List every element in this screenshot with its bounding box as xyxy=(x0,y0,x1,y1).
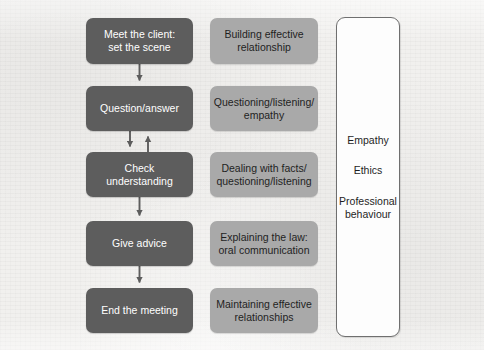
values-item-professional-behaviour: Professional behaviour xyxy=(339,195,397,220)
process-node-give-advice[interactable]: Give advice xyxy=(86,221,193,266)
skill-node-building-effective-relationship[interactable]: Building effective relationship xyxy=(210,18,318,64)
process-node-label: Give advice xyxy=(112,237,167,250)
diagram-canvas: Meet the client: set the scene Question/… xyxy=(0,0,484,350)
process-node-check-understanding[interactable]: Check understanding xyxy=(86,152,193,197)
values-item-empathy: Empathy xyxy=(347,134,388,147)
process-node-meet-the-client[interactable]: Meet the client: set the scene xyxy=(86,18,193,64)
skill-node-questioning-listening-empathy[interactable]: Questioning/listening/ empathy xyxy=(210,86,318,131)
values-item-ethics: Ethics xyxy=(354,164,383,177)
process-node-end-the-meeting[interactable]: End the meeting xyxy=(86,288,193,333)
process-node-label: Meet the client: set the scene xyxy=(104,28,175,54)
skill-node-label: Building effective relationship xyxy=(224,28,303,54)
process-node-label: Check understanding xyxy=(106,162,173,188)
process-node-label: Question/answer xyxy=(100,102,179,115)
skill-node-label: Dealing with facts/ questioning/listenin… xyxy=(216,162,311,188)
skill-node-label: Explaining the law: oral communication xyxy=(218,231,309,257)
values-panel[interactable]: Empathy Ethics Professional behaviour xyxy=(336,17,400,337)
skill-node-dealing-with-facts[interactable]: Dealing with facts/ questioning/listenin… xyxy=(210,152,318,197)
process-node-question-answer[interactable]: Question/answer xyxy=(86,86,193,131)
skill-node-maintaining-effective-relationships[interactable]: Maintaining effective relationships xyxy=(210,288,318,333)
process-node-label: End the meeting xyxy=(101,304,177,317)
skill-node-explaining-the-law[interactable]: Explaining the law: oral communication xyxy=(210,221,318,266)
skill-node-label: Questioning/listening/ empathy xyxy=(214,96,314,122)
skill-node-label: Maintaining effective relationships xyxy=(216,298,312,324)
